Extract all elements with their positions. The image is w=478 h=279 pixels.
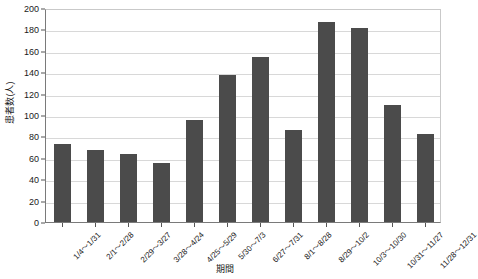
x-axis-tick-label: 2/29～3/27	[137, 229, 172, 264]
x-axis-tick-label: 3/28～4/24	[170, 229, 205, 264]
x-axis-tick-label: 2/1～2/28	[103, 229, 135, 261]
x-axis-title: 期間	[0, 262, 449, 275]
x-axis-tick-label: 8/1～8/28	[301, 229, 333, 261]
x-axis-tick-label: 6/27～7/31	[269, 229, 304, 264]
x-axis-tick-label: 8/29～10/2	[335, 229, 370, 264]
x-axis-tick-label: 4/25～5/29	[203, 229, 238, 264]
x-axis-tick-label: 1/4～1/31	[70, 229, 102, 261]
x-axis-tick-label: 5/30～7/3	[235, 229, 267, 261]
